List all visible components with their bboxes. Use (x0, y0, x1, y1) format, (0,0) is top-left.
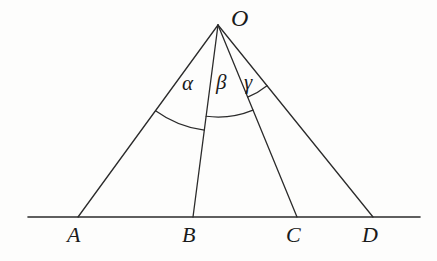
ray-OC (218, 25, 297, 217)
angle-arc-alpha (156, 111, 205, 130)
point-label-A: A (67, 224, 80, 246)
point-label-D: D (362, 224, 378, 246)
angle-label-gamma: γ (244, 72, 252, 93)
rays-group (78, 25, 373, 217)
point-label-B: B (182, 224, 195, 246)
diagram-canvas: OABCDαβγ (0, 0, 437, 261)
point-label-C: C (286, 224, 301, 246)
apex-label-O: O (231, 6, 248, 30)
ray-OD (218, 25, 373, 217)
angle-arc-beta (206, 110, 253, 117)
angle-label-alpha: α (182, 73, 193, 94)
angle-label-beta: β (216, 72, 226, 93)
